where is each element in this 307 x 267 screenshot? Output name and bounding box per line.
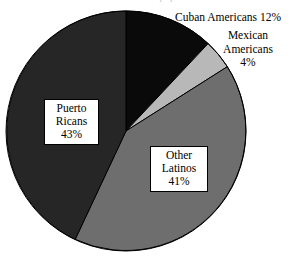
pie-label-mexican-line3: 4%: [196, 56, 300, 70]
pie-label-other-latinos-line1: Other: [155, 149, 203, 162]
pie-label-mexican-line2: Americans: [196, 43, 300, 57]
clipped-title-remnant: of the Latino population: [0, 0, 307, 2]
pie-label-puerto-ricans-line2: Ricans: [49, 115, 94, 128]
pie-label-mexican-line1: Mexican: [196, 29, 300, 43]
pie-label-other-latinos: Other Latinos 41%: [150, 146, 208, 192]
pie-label-puerto-ricans-line1: Puerto: [49, 102, 94, 115]
pie-label-puerto-ricans: Puerto Ricans 43%: [44, 99, 99, 145]
pie-label-mexican-americans: Mexican Americans 4%: [196, 29, 300, 70]
pie-label-cuban-americans: Cuban Americans 12%: [175, 11, 281, 25]
pie-label-other-latinos-line2: Latinos: [155, 162, 203, 175]
pie-chart-figure: of the Latino population Cuban Americans…: [0, 0, 307, 267]
pie-label-puerto-ricans-line3: 43%: [49, 128, 94, 141]
pie-label-other-latinos-line3: 41%: [155, 175, 203, 188]
